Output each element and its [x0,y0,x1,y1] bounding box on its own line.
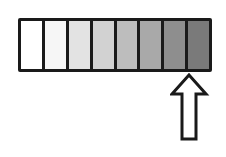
scale-cell-3 [69,21,90,69]
scale-cell-2 [45,21,66,69]
gradient-scale-bar [18,18,212,72]
scale-cell-6 [140,21,161,69]
scale-cell-5 [117,21,138,69]
scale-cell-7 [164,21,185,69]
scale-cell-1 [21,21,42,69]
scale-cell-4 [93,21,114,69]
scale-cell-8 [188,21,209,69]
up-arrow-icon [170,73,210,143]
